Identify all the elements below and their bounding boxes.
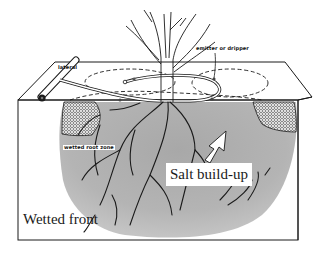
tree: [126, 10, 215, 102]
drip-irrigation-diagram: lateral emitter or dripper wetted root z…: [0, 0, 315, 254]
wetted-front-label: Wetted front: [23, 212, 98, 227]
lateral-label: lateral: [58, 65, 77, 70]
salt-buildup-box: Salt build-up: [166, 163, 252, 186]
emitter-ring: [119, 53, 220, 102]
surface-wetted-ellipses: [70, 69, 268, 100]
salt-buildup-label: Salt build-up: [170, 166, 248, 182]
lateral-pipe: [38, 60, 160, 102]
emitter-label: emitter or dripper: [196, 46, 249, 51]
wetted-root-zone-label: wetted root zone: [63, 145, 115, 150]
